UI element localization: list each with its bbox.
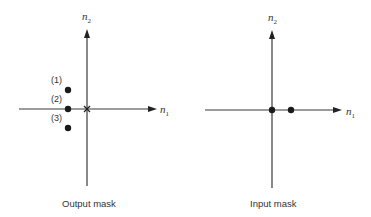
sample-point bbox=[65, 125, 71, 131]
diagram-canvas: n1 n2 (1)(2)(3) Output mask n1 n2 Input … bbox=[0, 0, 371, 217]
sample-point bbox=[65, 106, 71, 112]
n2-axis-label: n2 bbox=[82, 10, 92, 25]
sample-point bbox=[65, 87, 71, 93]
point-label: (1) bbox=[51, 75, 62, 85]
output-mask-panel: n1 n2 (1)(2)(3) Output mask bbox=[19, 10, 170, 209]
n1-axis-label: n1 bbox=[160, 103, 170, 118]
input-mask-panel: n1 n2 Input mask bbox=[205, 11, 356, 209]
output-points: (1)(2)(3) bbox=[51, 75, 71, 131]
n2-arrowhead-icon bbox=[269, 30, 275, 39]
sample-point bbox=[269, 107, 275, 113]
point-label: (2) bbox=[51, 94, 62, 104]
n1-arrowhead-icon bbox=[333, 107, 342, 113]
n1-axis-label: n1 bbox=[346, 105, 356, 120]
sample-point bbox=[288, 107, 294, 113]
n1-arrowhead-icon bbox=[148, 106, 157, 112]
n2-arrowhead-icon bbox=[84, 29, 90, 38]
n2-axis-label: n2 bbox=[268, 11, 278, 26]
point-label: (3) bbox=[51, 113, 62, 123]
output-mask-caption: Output mask bbox=[62, 198, 116, 209]
input-mask-caption: Input mask bbox=[250, 198, 297, 209]
